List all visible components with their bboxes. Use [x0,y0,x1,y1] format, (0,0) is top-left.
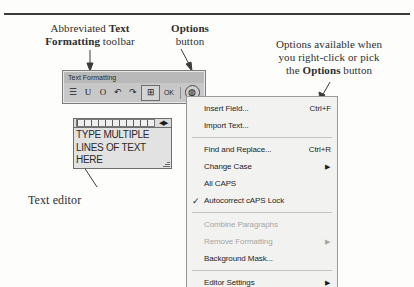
ok-button[interactable]: OK [161,89,177,96]
menu-item-shortcut: Ctrl+R [303,145,331,154]
annotation-toolbar-line1-bold: Text [109,22,130,34]
menu-item[interactable]: All CAPS [187,175,337,192]
text-editor-widget: ◀▶ TYPE MULTIPLE LINES OF TEXT HERE [73,118,172,169]
menu-item: Remove Formatting▶ [187,233,337,250]
figure-page: Abbreviated Text Formatting toolbar Opti… [0,0,414,287]
menu-item-label: Combine Paragraphs [204,220,331,229]
redo-icon[interactable]: ↷ [126,86,140,100]
menu-item[interactable]: Editor Settings▶ [187,274,337,287]
menu-item-shortcut: Ctrl+F [304,104,331,113]
menu-separator [192,212,332,213]
menu-item[interactable]: ✓Autocorrect cAPS Lock [187,192,337,209]
annotation-right-line3-bold: Options [303,64,341,76]
undo-icon[interactable]: ↶ [111,86,125,100]
annotation-right-callout: Options available when you right-click o… [248,38,410,77]
menu-item[interactable]: Background Mask... [187,250,337,267]
toolbar-button-row: ☰ U O ↶ ↷ ⊞ OK ◍ [64,83,204,102]
annotation-right-line3-suffix: button [341,64,373,76]
annotation-right-line2: you right-click or pick [279,51,380,63]
menu-item: Combine Paragraphs [187,216,337,233]
menu-item[interactable]: Insert Field...Ctrl+F [187,100,337,117]
submenu-arrow-icon: ▶ [323,238,331,246]
editor-text-line: TYPE MULTIPLE [76,129,169,142]
check-icon: ✓ [187,196,204,206]
text-formatting-toolbar[interactable]: Text Formatting ☰ U O ↶ ↷ ⊞ OK ◍ [62,70,206,104]
menu-item[interactable]: Change Case▶ [187,158,337,175]
menu-separator [192,270,332,271]
menu-item-label: Change Case [204,162,323,171]
toolbar-title-bar[interactable]: Text Formatting [64,72,204,83]
header-rule [4,13,410,15]
ruler-resize-handle-icon[interactable]: ◀▶ [157,119,169,127]
annotation-options-title: Options [171,22,209,34]
menu-item-label: Background Mask... [204,254,331,263]
menu-item-label: Insert Field... [204,104,304,113]
options-context-menu[interactable]: Insert Field...Ctrl+FImport Text...Find … [186,96,338,287]
annotation-toolbar-line2-bold: Formatting [45,35,100,47]
menu-item-label: All CAPS [204,179,331,188]
editor-resize-grip[interactable] [163,160,170,167]
leader-right-line [322,82,330,96]
menu-item-label: Remove Formatting [204,237,323,246]
overline-icon[interactable]: O [96,86,110,100]
menu-item-label: Autocorrect cAPS Lock [204,196,331,205]
submenu-arrow-icon: ▶ [323,279,331,287]
leader-options-line [181,49,190,66]
annotation-editor-label: Text editor [28,193,81,207]
menu-item[interactable]: Find and Replace...Ctrl+R [187,141,337,158]
stack-icon[interactable]: ⊞ [141,85,160,101]
menu-separator [192,137,332,138]
annotation-options-callout: Options button [160,22,220,48]
annotation-toolbar-line1-plain: Abbreviated [50,22,108,34]
annotation-options-subtitle: button [160,35,220,48]
annotation-toolbar-line2-plain: toolbar [100,35,135,47]
text-editor-input[interactable]: TYPE MULTIPLE LINES OF TEXT HERE [73,128,172,169]
editor-text-line: LINES OF TEXT [76,142,169,155]
menu-item-label: Find and Replace... [204,145,303,154]
toolbar-separator [180,87,181,99]
annotation-right-line1: Options available when [276,38,382,50]
submenu-arrow-icon: ▶ [323,163,331,171]
annotation-editor-callout: Text editor [28,194,118,207]
ruler-ticks [76,119,155,127]
underline-icon[interactable]: U [81,86,95,100]
toolbar-title-label: Text Formatting [68,74,116,81]
style-icon[interactable]: ☰ [66,86,80,100]
annotation-toolbar-callout: Abbreviated Text Formatting toolbar [24,22,156,48]
menu-item[interactable]: Import Text... [187,117,337,134]
menu-item-label: Import Text... [204,121,331,130]
editor-ruler[interactable]: ◀▶ [73,118,172,128]
menu-item-label: Editor Settings [204,278,323,287]
editor-text-line: HERE [76,154,169,167]
annotation-right-line3-prefix: the [286,64,303,76]
